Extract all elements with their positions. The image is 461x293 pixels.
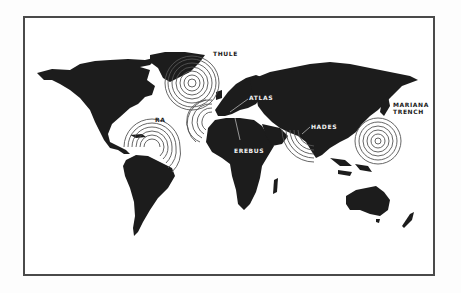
north-america (37, 57, 158, 154)
british-isles (216, 90, 222, 100)
world-map (0, 0, 461, 293)
label-ra: RA (155, 117, 165, 123)
label-atlas: ATLAS (249, 95, 273, 101)
label-erebus: EREBUS (234, 148, 264, 154)
continents (37, 52, 418, 236)
mariana-rings (355, 118, 401, 164)
africa (206, 118, 274, 210)
label-hades: HADES (311, 124, 337, 130)
tasmania (376, 219, 380, 223)
label-thule: THULE (213, 51, 238, 57)
caribbean (130, 134, 146, 138)
south-america (123, 155, 175, 236)
australia (346, 186, 390, 216)
label-mariana-trench-line2: TRENCH (393, 109, 424, 115)
new-zealand (402, 212, 414, 228)
madagascar (273, 178, 278, 194)
